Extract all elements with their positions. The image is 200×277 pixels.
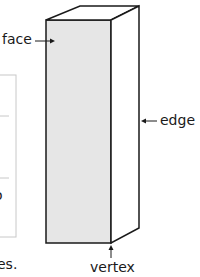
side-face: [111, 6, 139, 243]
rectangular-prism: [46, 6, 139, 243]
vertex-arrow: [109, 245, 114, 258]
front-face: [46, 20, 111, 243]
edge-label: edge: [160, 113, 195, 127]
face-label: face: [2, 32, 32, 46]
edge-arrow: [141, 119, 157, 124]
vertex-label: vertex: [90, 260, 135, 274]
partial-cut-char: o: [0, 188, 3, 202]
partial-table-box: [0, 75, 16, 237]
partial-cut-text: es.: [0, 257, 17, 271]
